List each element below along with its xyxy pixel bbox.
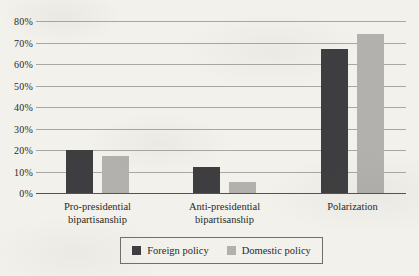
- category-label-line: Anti-presidential: [163, 201, 287, 214]
- legend-item: Domestic policy: [227, 245, 311, 256]
- category-label-line: bipartisanship: [163, 214, 287, 227]
- y-tick-label: 50%: [6, 80, 33, 91]
- y-tick-label: 20%: [6, 145, 33, 156]
- y-tick-label: 80%: [6, 16, 33, 27]
- bar-domestic-policy-category-2: [357, 34, 384, 193]
- category-label-line: bipartisanship: [36, 214, 160, 227]
- bar-foreign-policy-category-2: [321, 49, 348, 193]
- legend: Foreign policyDomestic policy: [120, 237, 323, 264]
- y-tick-label: 60%: [6, 59, 33, 70]
- legend-label: Foreign policy: [147, 245, 209, 256]
- category-label: Polarization: [291, 201, 415, 214]
- bar-chart-figure: 0%10%20%30%40%50%60%70%80%Pro-presidenti…: [0, 0, 419, 276]
- y-tick-label: 10%: [6, 166, 33, 177]
- bar-foreign-policy-category-1: [193, 167, 220, 193]
- legend-item: Foreign policy: [132, 245, 209, 256]
- bar-domestic-policy-category-1: [229, 182, 256, 193]
- gridline: [36, 86, 406, 87]
- legend-swatch-icon: [132, 246, 141, 255]
- y-tick-label: 70%: [6, 37, 33, 48]
- category-label: Pro-presidentialbipartisanship: [36, 201, 160, 226]
- category-label-line: Polarization: [291, 201, 415, 214]
- x-axis-line: [36, 193, 406, 194]
- category-label: Anti-presidentialbipartisanship: [163, 201, 287, 226]
- legend-label: Domestic policy: [242, 245, 311, 256]
- legend-swatch-icon: [227, 246, 236, 255]
- y-tick-label: 40%: [6, 102, 33, 113]
- gridline: [36, 129, 406, 130]
- gridline: [36, 43, 406, 44]
- y-tick-label: 0%: [6, 188, 33, 199]
- gridline: [36, 21, 406, 22]
- gridline: [36, 64, 406, 65]
- gridline: [36, 107, 406, 108]
- bar-foreign-policy-category-0: [66, 150, 93, 193]
- category-label-line: Pro-presidential: [36, 201, 160, 214]
- y-tick-label: 30%: [6, 123, 33, 134]
- bar-domestic-policy-category-0: [102, 156, 129, 193]
